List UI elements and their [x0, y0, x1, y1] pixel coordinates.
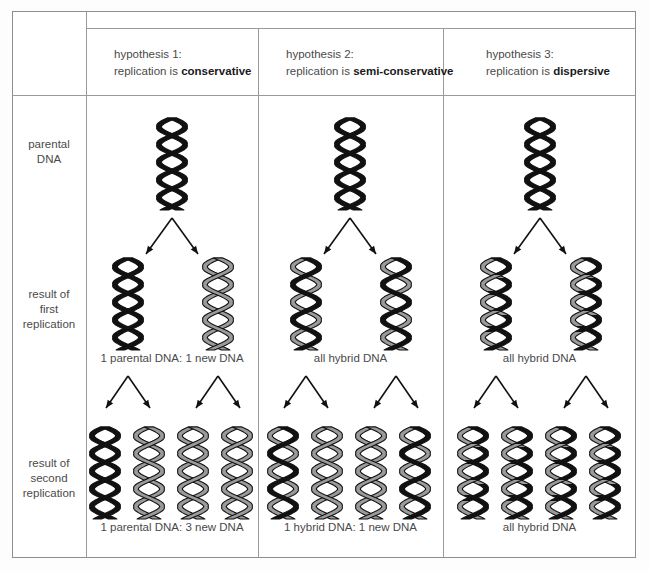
dna-helix-dispersive [473, 258, 519, 350]
column-header-hypothesis-3: hypothesis 3: replication is dispersive [486, 46, 610, 80]
dna-helix-new [195, 258, 241, 350]
dna-helix-new [170, 427, 216, 519]
helix-hybrid [392, 427, 438, 519]
dna-helix-hybrid [283, 258, 329, 350]
caption-col1-second: 1 parental DNA: 3 new DNA [86, 521, 258, 533]
helix-parental [327, 118, 373, 210]
row-label-second-line2: second [12, 471, 86, 486]
dna-helix-parental [82, 427, 128, 519]
caption-col3-second: all hybrid DNA [443, 521, 636, 533]
hypothesis-1-line2: replication is conservative [114, 63, 251, 80]
dna-helix-dispersive [450, 427, 496, 519]
hypothesis-3-prefix: replication is [486, 65, 553, 77]
helix-new [304, 427, 350, 519]
helix-dispersive [473, 258, 519, 350]
dna-helix-new [304, 427, 350, 519]
hypothesis-2-line1: hypothesis 2: [286, 46, 454, 63]
hypothesis-2-prefix: replication is [286, 65, 353, 77]
helix-parental [149, 118, 195, 210]
hypothesis-2-line2: replication is semi-conservative [286, 63, 454, 80]
helix-new [348, 427, 394, 519]
row-label-first-line1: result of [12, 287, 86, 302]
replication-arrow-pair [136, 216, 208, 260]
hypothesis-1-keyword: conservative [181, 65, 251, 77]
dna-helix-new [348, 427, 394, 519]
row-label-second-line1: result of [12, 456, 86, 471]
replication-arrow-pair [186, 374, 250, 414]
helix-dispersive [450, 427, 496, 519]
caption-col2-first: all hybrid DNA [258, 352, 443, 364]
hypothesis-3-line2: replication is dispersive [486, 63, 610, 80]
helix-dispersive [582, 427, 628, 519]
row-label-first-replication: result of first replication [12, 287, 86, 332]
row-label-first-line3: replication [12, 317, 86, 332]
row-label-parental-dna: parental DNA [12, 137, 86, 167]
replication-arrow-pair [96, 374, 160, 414]
column-header-hypothesis-2: hypothesis 2: replication is semi-conser… [286, 46, 454, 80]
hypothesis-1-prefix: replication is [114, 65, 181, 77]
caption-col1-first: 1 parental DNA: 1 new DNA [86, 352, 258, 364]
row-label-parental-line1: parental [12, 137, 86, 152]
rule-header-top [86, 28, 636, 29]
helix-parental [105, 258, 151, 350]
hypothesis-2-keyword: semi-conservative [353, 65, 453, 77]
row-label-parental-line2: DNA [12, 152, 86, 167]
replication-arrow-pair [504, 216, 576, 260]
column-header-hypothesis-1: hypothesis 1: replication is conservativ… [114, 46, 251, 80]
dna-helix-parental [149, 118, 195, 210]
dna-helix-parental [327, 118, 373, 210]
dna-helix-hybrid [260, 427, 306, 519]
row-label-second-line3: replication [12, 486, 86, 501]
helix-hybrid [373, 258, 419, 350]
helix-parental [517, 118, 563, 210]
caption-col2-second: 1 hybrid DNA: 1 new DNA [258, 521, 443, 533]
helix-parental [82, 427, 128, 519]
dna-helix-new [126, 427, 172, 519]
dna-helix-dispersive [538, 427, 584, 519]
dna-helix-dispersive [494, 427, 540, 519]
dna-helix-dispersive [582, 427, 628, 519]
divider-column-2 [443, 28, 444, 558]
helix-hybrid [260, 427, 306, 519]
helix-new [195, 258, 241, 350]
row-label-second-replication: result of second replication [12, 456, 86, 501]
helix-new [126, 427, 172, 519]
hypothesis-3-keyword: dispersive [553, 65, 610, 77]
helix-new [214, 427, 260, 519]
dna-helix-dispersive [563, 258, 609, 350]
dna-replication-figure: hypothesis 1: replication is conservativ… [0, 0, 649, 571]
helix-dispersive [538, 427, 584, 519]
dna-helix-new [214, 427, 260, 519]
hypothesis-1-line1: hypothesis 1: [114, 46, 251, 63]
replication-arrow-pair [274, 374, 338, 414]
helix-dispersive [494, 427, 540, 519]
row-label-first-line2: first [12, 302, 86, 317]
replication-arrow-pair [314, 216, 386, 260]
replication-arrow-pair [554, 374, 618, 414]
helix-new [170, 427, 216, 519]
helix-hybrid [283, 258, 329, 350]
dna-helix-hybrid [373, 258, 419, 350]
helix-dispersive [563, 258, 609, 350]
hypothesis-3-line1: hypothesis 3: [486, 46, 610, 63]
replication-arrow-pair [364, 374, 428, 414]
caption-col3-first: all hybrid DNA [443, 352, 636, 364]
rule-header-bottom [12, 95, 636, 96]
dna-helix-hybrid [392, 427, 438, 519]
replication-arrow-pair [464, 374, 528, 414]
dna-helix-parental [105, 258, 151, 350]
dna-helix-parental [517, 118, 563, 210]
